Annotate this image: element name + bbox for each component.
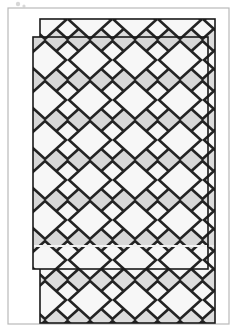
figure-root: Diamond-lattice panel assembly line draw… [0,0,238,331]
line-drawing-canvas [0,0,238,331]
speck-icon [22,4,25,7]
speck-icon [16,2,20,6]
front-panel-fill [33,37,208,269]
front-panel [33,37,208,269]
